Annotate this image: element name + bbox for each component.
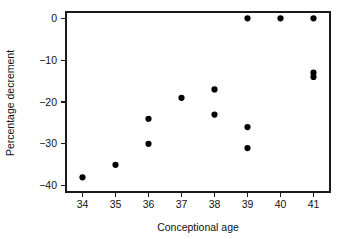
x-axis-title: Conceptional age	[157, 221, 239, 233]
y-tick-label: −40	[39, 179, 57, 191]
data-point	[178, 95, 184, 101]
x-tick-label: 34	[77, 198, 89, 210]
x-axis-ticks	[83, 192, 314, 197]
data-points-layer	[79, 15, 316, 180]
data-point	[112, 162, 118, 168]
x-tick-label: 40	[275, 198, 287, 210]
data-point	[145, 141, 151, 147]
x-tick-label: 39	[242, 198, 254, 210]
x-tick-label: 35	[110, 198, 122, 210]
y-tick-label: −20	[39, 96, 57, 108]
y-tick-label: −10	[39, 54, 57, 66]
x-tick-label: 41	[308, 198, 320, 210]
x-tick-label: 37	[176, 198, 188, 210]
data-point	[79, 174, 85, 180]
plot-frame	[66, 12, 330, 192]
data-point	[145, 116, 151, 122]
y-tick-label: 0	[51, 12, 57, 24]
data-point	[277, 15, 283, 21]
y-axis-title: Percentage decrement	[4, 50, 16, 156]
data-point	[211, 86, 217, 92]
data-point	[244, 145, 250, 151]
x-tick-label: 36	[143, 198, 155, 210]
y-tick-label: −30	[39, 137, 57, 149]
data-point	[211, 111, 217, 117]
data-point	[310, 74, 316, 80]
x-tick-label: 38	[209, 198, 221, 210]
x-axis-tick-labels: 3435363738394041	[77, 198, 320, 210]
data-point	[310, 15, 316, 21]
scatter-plot-figure: 0−10−20−30−40 3435363738394041 Conceptio…	[0, 0, 346, 239]
y-axis-ticks	[61, 18, 66, 185]
y-axis-tick-labels: 0−10−20−30−40	[39, 12, 57, 191]
data-point	[244, 124, 250, 130]
data-point	[244, 15, 250, 21]
plot-canvas: 0−10−20−30−40 3435363738394041 Conceptio…	[0, 0, 346, 239]
